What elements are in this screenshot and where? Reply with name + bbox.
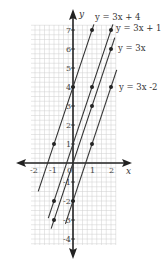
chart: yx -2-1012-4-3-2-11234567 y = 3x + 4y = … xyxy=(0,0,161,261)
equation-label: y = 3x -2 xyxy=(118,82,158,92)
x-tick-label: -1 xyxy=(49,166,57,175)
data-point xyxy=(90,28,94,32)
data-point xyxy=(52,199,56,203)
y-tick-label: -2 xyxy=(63,197,71,206)
data-point xyxy=(52,218,56,222)
x-tick-label: -2 xyxy=(30,166,38,175)
line-y-3x-1 xyxy=(48,24,113,218)
data-point xyxy=(71,199,75,203)
y-tick-label: 6 xyxy=(66,45,71,54)
data-point xyxy=(90,85,94,89)
data-point xyxy=(90,142,94,146)
data-point xyxy=(109,47,113,51)
equation-label: y = 3x xyxy=(117,43,146,53)
y-tick-label: 7 xyxy=(66,26,71,35)
x-tick-label: 1 xyxy=(90,166,95,175)
y-tick-label: 4 xyxy=(66,83,71,92)
data-point xyxy=(52,142,56,146)
x-axis-label: x xyxy=(126,166,131,176)
y-tick-label: -4 xyxy=(63,235,71,244)
equation-label: y = 3x + 4 xyxy=(94,12,140,22)
line-y-3x xyxy=(51,38,115,229)
y-axis-label: y xyxy=(78,9,85,19)
y-tick-label: 1 xyxy=(66,140,71,149)
data-point xyxy=(71,85,75,89)
equation-label: y = 3x + 1 xyxy=(115,23,161,33)
data-point xyxy=(109,85,113,89)
lines xyxy=(38,24,116,228)
data-point xyxy=(109,28,113,32)
y-tick-label: 2 xyxy=(66,121,71,130)
data-point xyxy=(90,104,94,108)
x-tick-label: 2 xyxy=(109,166,114,175)
axes: yx xyxy=(16,9,132,259)
y-tick-label: 5 xyxy=(66,64,71,73)
